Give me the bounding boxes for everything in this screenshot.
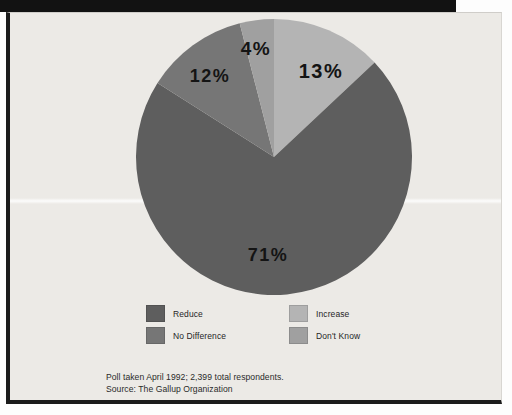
chart-legend: Reduce Increase No Difference Don't Know <box>146 305 416 344</box>
pie-chart-svg: 13% 71% 12% 4% <box>135 18 413 296</box>
legend-swatch-dont-know <box>289 327 308 344</box>
slice-label-dont-know: 4% <box>241 38 271 59</box>
chart-figure: 13% 71% 12% 4% Reduce Increase No Differ… <box>0 0 512 415</box>
legend-label-no-difference: No Difference <box>173 331 226 341</box>
legend-swatch-increase <box>289 305 308 322</box>
legend-swatch-reduce <box>146 305 165 322</box>
legend-item-reduce[interactable]: Reduce <box>146 305 273 322</box>
legend-item-increase[interactable]: Increase <box>289 305 416 322</box>
legend-label-dont-know: Don't Know <box>316 331 360 341</box>
footnote-line-poll: Poll taken April 1992; 2,399 total respo… <box>106 371 284 383</box>
top-black-band <box>0 0 456 12</box>
slice-label-reduce: 71% <box>248 245 289 265</box>
legend-label-reduce: Reduce <box>173 309 203 319</box>
chart-footnote: Poll taken April 1992; 2,399 total respo… <box>106 371 284 395</box>
legend-label-increase: Increase <box>316 309 349 319</box>
slice-label-increase: 13% <box>299 60 344 82</box>
page-frame: 13% 71% 12% 4% Reduce Increase No Differ… <box>6 12 502 404</box>
pie-chart: 13% 71% 12% 4% <box>135 18 413 296</box>
legend-swatch-no-difference <box>146 327 165 344</box>
slice-label-no-difference: 12% <box>190 66 231 86</box>
footnote-line-source: Source: The Gallup Organization <box>106 383 284 395</box>
legend-item-dont-know[interactable]: Don't Know <box>289 327 416 344</box>
legend-item-no-difference[interactable]: No Difference <box>146 327 273 344</box>
